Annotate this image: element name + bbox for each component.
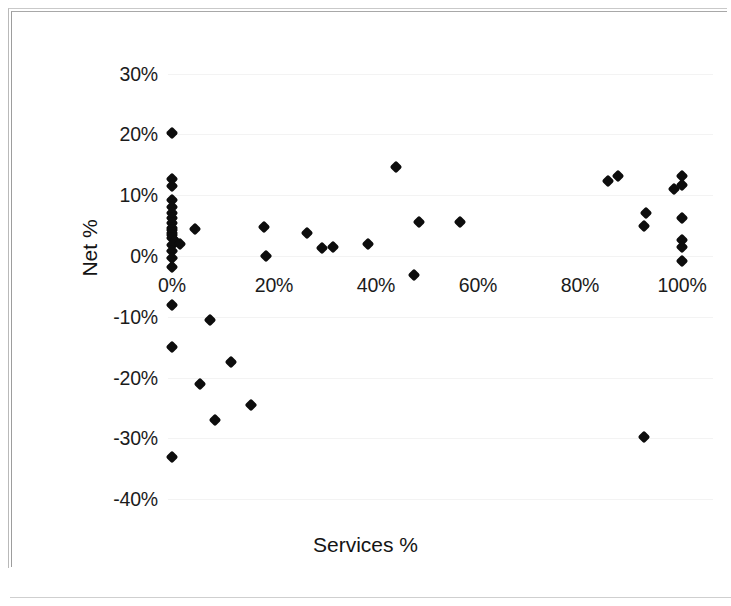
- grid-line: [168, 195, 713, 196]
- x-axis-title: Services %: [0, 533, 731, 557]
- data-point: [637, 219, 650, 232]
- data-point: [316, 242, 329, 255]
- data-point: [257, 220, 270, 233]
- y-axis-tick-label: 30%: [38, 62, 158, 85]
- data-point: [166, 227, 179, 240]
- data-point: [224, 356, 237, 369]
- data-point: [194, 377, 207, 390]
- data-point: [454, 216, 467, 229]
- data-point: [168, 235, 181, 248]
- grid-line: [168, 317, 713, 318]
- x-axis-tick-label: 40%: [357, 274, 395, 297]
- data-point: [676, 212, 689, 225]
- data-point: [612, 169, 625, 182]
- data-point: [166, 201, 179, 214]
- y-axis-tick-label: -10%: [38, 305, 158, 328]
- data-point: [189, 223, 202, 236]
- data-point: [637, 430, 650, 443]
- data-point: [301, 227, 314, 240]
- data-point: [166, 261, 179, 274]
- data-point: [413, 216, 426, 229]
- data-point: [260, 250, 273, 263]
- y-axis-tick-labels: 30%20%10%0%-10%-20%-30%-40%: [0, 0, 731, 606]
- data-point: [676, 179, 689, 192]
- y-axis-tick-label: -20%: [38, 366, 158, 389]
- scatter-chart: 30%20%10%0%-10%-20%-30%-40% 0%20%40%60%8…: [0, 0, 731, 606]
- data-point: [166, 224, 179, 237]
- data-point: [676, 241, 689, 254]
- data-point: [166, 194, 179, 207]
- data-point: [676, 169, 689, 182]
- grid-line: [168, 74, 713, 75]
- data-point: [676, 233, 689, 246]
- data-point: [166, 126, 179, 139]
- data-point: [166, 217, 179, 230]
- data-point: [245, 399, 258, 412]
- data-point: [166, 450, 179, 463]
- grid-line: [168, 256, 713, 257]
- y-axis-tick-label: 20%: [38, 123, 158, 146]
- data-point: [166, 239, 179, 252]
- data-point: [166, 341, 179, 354]
- data-point: [326, 241, 339, 254]
- data-point: [390, 161, 403, 174]
- data-point: [408, 269, 421, 282]
- grid-line: [168, 499, 713, 500]
- x-axis-tick-label: 100%: [657, 274, 706, 297]
- grid-line: [168, 134, 713, 135]
- data-point: [166, 207, 179, 220]
- y-axis-title: Net %: [78, 188, 102, 308]
- data-point: [209, 414, 222, 427]
- x-axis-tick-label: 0%: [158, 274, 186, 297]
- data-point: [166, 222, 179, 235]
- x-axis-tick-label: 60%: [459, 274, 497, 297]
- data-point: [166, 212, 179, 225]
- data-point: [166, 298, 179, 311]
- data-point: [166, 229, 179, 242]
- data-point: [640, 206, 653, 219]
- y-axis-tick-label: -30%: [38, 427, 158, 450]
- data-point: [166, 173, 179, 186]
- grid-layer: [0, 0, 731, 606]
- data-point: [173, 237, 186, 250]
- data-point: [362, 238, 375, 251]
- data-point: [166, 245, 179, 258]
- data-points-layer: [0, 0, 731, 606]
- x-axis-tick-label: 20%: [255, 274, 293, 297]
- data-point: [166, 180, 179, 193]
- grid-line: [168, 438, 713, 439]
- data-point: [676, 254, 689, 267]
- data-point: [204, 313, 217, 326]
- data-point: [602, 174, 615, 187]
- data-point: [668, 183, 681, 196]
- x-axis-tick-label: 80%: [561, 274, 599, 297]
- y-axis-tick-label: -40%: [38, 488, 158, 511]
- data-point: [166, 232, 179, 245]
- scanned-page: 30%20%10%0%-10%-20%-30%-40% 0%20%40%60%8…: [0, 0, 731, 606]
- grid-line: [168, 378, 713, 379]
- data-point: [166, 252, 179, 265]
- x-axis-tick-labels: 0%20%40%60%80%100%: [0, 0, 731, 606]
